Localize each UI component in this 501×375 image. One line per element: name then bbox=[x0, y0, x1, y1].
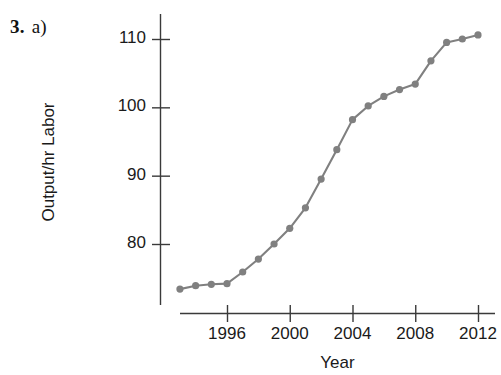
data-point-marker bbox=[208, 281, 215, 288]
data-point-marker bbox=[192, 282, 199, 289]
x-tick-label: 2000 bbox=[262, 324, 318, 344]
data-point-marker bbox=[270, 240, 277, 247]
data-point-marker bbox=[412, 81, 419, 88]
y-tick-label: 80 bbox=[100, 233, 146, 253]
problem-part: a) bbox=[32, 16, 47, 37]
x-tick-label: 2012 bbox=[450, 324, 501, 344]
series-markers bbox=[176, 31, 481, 292]
problem-label: 3.a) bbox=[10, 16, 47, 38]
data-point-marker bbox=[349, 116, 356, 123]
data-point-marker bbox=[333, 146, 340, 153]
axis-group bbox=[152, 14, 495, 322]
y-axis-title: Output/hr Labor bbox=[39, 67, 59, 257]
x-tick-label: 1996 bbox=[199, 324, 255, 344]
data-point-marker bbox=[443, 39, 450, 46]
x-tick-label: 2004 bbox=[325, 324, 381, 344]
data-point-marker bbox=[255, 255, 262, 262]
data-point-marker bbox=[239, 268, 246, 275]
y-tick-label: 110 bbox=[100, 28, 146, 48]
data-point-marker bbox=[380, 93, 387, 100]
data-point-marker bbox=[286, 225, 293, 232]
data-point-marker bbox=[365, 102, 372, 109]
chart-figure: 3.a) Output/hr Labor Year 8090100110 199… bbox=[0, 0, 501, 375]
series-line bbox=[180, 35, 478, 289]
data-point-marker bbox=[176, 286, 183, 293]
data-point-marker bbox=[302, 204, 309, 211]
data-point-marker bbox=[474, 31, 481, 38]
data-series-group bbox=[176, 31, 481, 292]
problem-number: 3. bbox=[10, 16, 25, 37]
chart-plot-area bbox=[0, 0, 501, 375]
data-point-marker bbox=[427, 57, 434, 64]
x-axis-title: Year bbox=[180, 353, 495, 373]
y-tick-label: 100 bbox=[100, 96, 146, 116]
data-point-marker bbox=[459, 35, 466, 42]
data-point-marker bbox=[223, 280, 230, 287]
x-tick-label: 2008 bbox=[387, 324, 443, 344]
data-point-marker bbox=[396, 86, 403, 93]
y-tick-label: 90 bbox=[100, 165, 146, 185]
data-point-marker bbox=[318, 175, 325, 182]
